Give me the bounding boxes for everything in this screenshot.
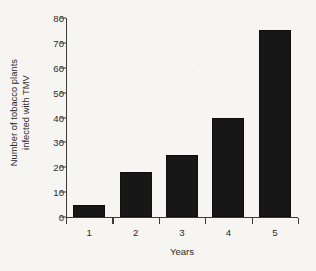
bar-series: 12345 bbox=[0, 0, 316, 271]
x-axis-title: Years bbox=[0, 246, 316, 257]
bar bbox=[166, 155, 198, 217]
x-axis-tick-label: 5 bbox=[272, 227, 277, 238]
x-axis-tick-label: 4 bbox=[226, 227, 231, 238]
bar-chart-figure: Number of tobacco plants infected with T… bbox=[0, 0, 316, 271]
x-axis-tick-label: 3 bbox=[179, 227, 184, 238]
x-axis-title-text: Years bbox=[170, 246, 194, 257]
bar bbox=[212, 118, 244, 218]
bar bbox=[259, 30, 291, 217]
x-axis-tick-label: 2 bbox=[133, 227, 138, 238]
x-axis-tick-label: 1 bbox=[87, 227, 92, 238]
bar bbox=[120, 172, 152, 217]
bar bbox=[73, 205, 105, 217]
